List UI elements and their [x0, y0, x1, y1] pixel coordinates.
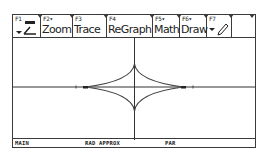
f1-tools-menu[interactable]: F1: [13, 15, 41, 37]
f6-key-label: F6▾: [182, 15, 192, 22]
angle-mode-status: RAD APPROX: [85, 139, 120, 147]
folder-status: MAIN: [15, 139, 29, 147]
f2-zoom-menu[interactable]: F2▾ Zoom: [41, 15, 73, 37]
regraph-label: ReGraph: [108, 24, 151, 36]
calculator-screen: F1 F2▾ Zoom F3 Trace F4 ReGraph F5▾ Math: [12, 14, 256, 148]
status-bar: MAIN RAD APPROX PAR: [13, 138, 255, 147]
graph-mode-status: PAR: [165, 139, 176, 147]
f8-empty-slot[interactable]: [232, 15, 255, 37]
trace-label: Trace: [74, 24, 100, 36]
pencil-icon: [208, 22, 230, 36]
f3-trace-button[interactable]: F3 Trace: [73, 15, 107, 37]
math-label: Math: [154, 24, 179, 36]
function-key-toolbar: F1 F2▾ Zoom F3 Trace F4 ReGraph F5▾ Math: [13, 15, 255, 38]
graph-area: [13, 37, 255, 140]
f5-math-menu[interactable]: F5▾ Math: [153, 15, 180, 37]
tools-icon: [14, 18, 38, 36]
right-cusp: [181, 86, 186, 89]
f6-draw-menu[interactable]: F6▾ Draw: [180, 15, 207, 37]
f3-key-label: F3: [75, 15, 82, 22]
f4-key-label: F4: [109, 15, 116, 22]
f5-key-label: F5▾: [155, 15, 165, 22]
zoom-label: Zoom: [42, 24, 71, 36]
draw-label: Draw: [181, 24, 207, 36]
f4-regraph-button[interactable]: F4 ReGraph: [107, 15, 153, 37]
f2-key-label: F2▾: [43, 15, 53, 22]
left-cusp: [83, 86, 88, 89]
f7-key-label: F7: [209, 15, 216, 22]
f7-pencil-menu[interactable]: F7: [207, 15, 232, 37]
